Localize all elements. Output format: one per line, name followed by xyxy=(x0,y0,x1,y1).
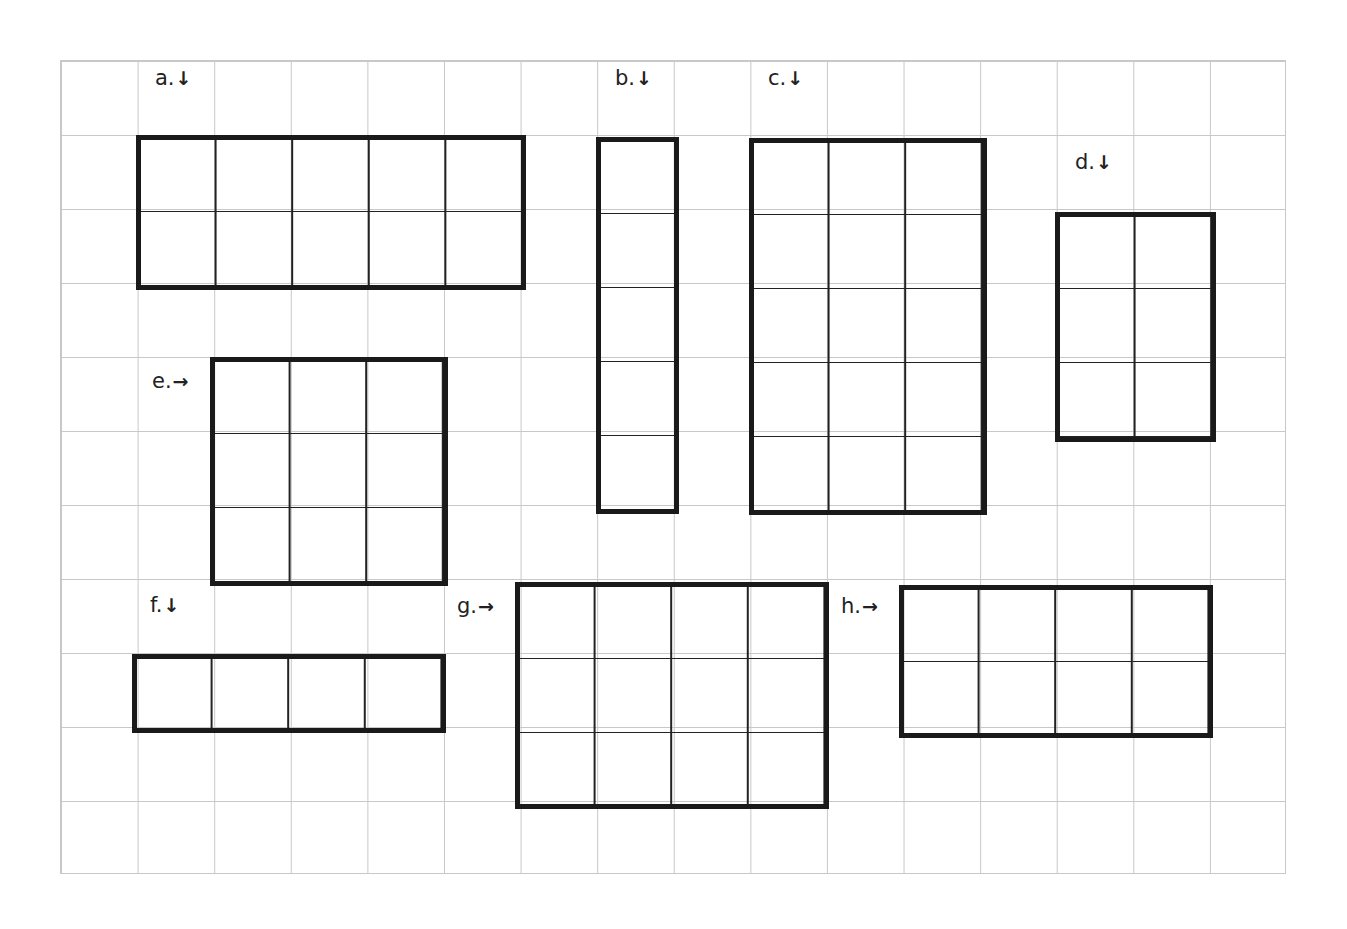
rectangle-a xyxy=(136,135,526,290)
rectangle-c xyxy=(749,138,987,515)
label-a: a.↓ xyxy=(155,66,191,90)
right-arrow-icon: → xyxy=(173,370,189,392)
rectangle-b xyxy=(596,137,679,514)
down-arrow-icon: ↓ xyxy=(176,67,192,89)
rectangle-h xyxy=(899,585,1213,738)
down-arrow-icon: ↓ xyxy=(1096,151,1112,173)
rectangle-g xyxy=(515,582,829,809)
label-e-text: e. xyxy=(152,369,172,393)
down-arrow-icon: ↓ xyxy=(787,67,803,89)
label-h-text: h. xyxy=(841,594,861,618)
label-b-text: b. xyxy=(615,66,635,90)
right-arrow-icon: → xyxy=(478,595,494,617)
right-arrow-icon: → xyxy=(862,595,878,617)
label-h: h.→ xyxy=(841,594,878,618)
label-g-text: g. xyxy=(457,594,477,618)
label-f: f.↓ xyxy=(150,593,179,617)
label-f-text: f. xyxy=(150,593,163,617)
label-c-text: c. xyxy=(768,66,786,90)
label-a-text: a. xyxy=(155,66,175,90)
rectangle-d xyxy=(1055,212,1216,442)
label-c: c.↓ xyxy=(768,66,803,90)
label-g: g.→ xyxy=(457,594,494,618)
label-d: d.↓ xyxy=(1075,150,1112,174)
label-e: e.→ xyxy=(152,369,189,393)
rectangle-f xyxy=(132,654,446,733)
rectangle-e xyxy=(210,357,448,586)
down-arrow-icon: ↓ xyxy=(636,67,652,89)
down-arrow-icon: ↓ xyxy=(164,594,180,616)
label-d-text: d. xyxy=(1075,150,1095,174)
label-b: b.↓ xyxy=(615,66,652,90)
